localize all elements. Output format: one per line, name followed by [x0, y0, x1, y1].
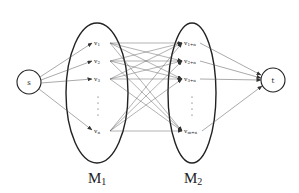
m2-nodes: v1+n v2+n v3+n vm+n	[183, 39, 202, 135]
source-label: s	[27, 79, 31, 87]
m2-ellipsis-dots	[191, 96, 192, 115]
bipartite-edges	[110, 43, 182, 131]
flow-network-diagram: s t v1 v2 v3	[0, 0, 299, 193]
sink-label: t	[272, 77, 275, 85]
set-m2-label: M2	[184, 170, 202, 187]
m1-nodes: v1 v2 v3 vn	[93, 39, 109, 135]
set-m1-label: M1	[88, 170, 106, 187]
m1-ellipsis-dots	[97, 96, 98, 115]
sink-edges	[200, 43, 262, 131]
